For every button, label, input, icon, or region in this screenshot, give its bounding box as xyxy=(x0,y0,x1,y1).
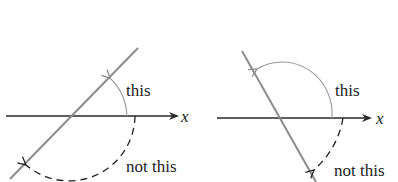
correct-angle-label: this xyxy=(126,81,151,100)
correct-angle-arc xyxy=(110,78,127,116)
correct-angle-arc xyxy=(257,62,332,118)
incorrect-angle-arc xyxy=(26,116,135,181)
angle-of-inclination-figure: x this not this x this not this xyxy=(0,0,398,182)
x-axis-label: x xyxy=(180,107,189,126)
x-axis-label: x xyxy=(375,109,384,128)
left-diagram: x this not this xyxy=(6,48,189,181)
incorrect-angle-label: not this xyxy=(126,157,177,176)
incorrect-angle-label: not this xyxy=(334,161,385,180)
right-diagram: x this not this xyxy=(217,51,385,182)
correct-angle-label: this xyxy=(335,81,360,100)
inclined-line xyxy=(242,51,316,182)
inclined-line xyxy=(10,48,138,179)
